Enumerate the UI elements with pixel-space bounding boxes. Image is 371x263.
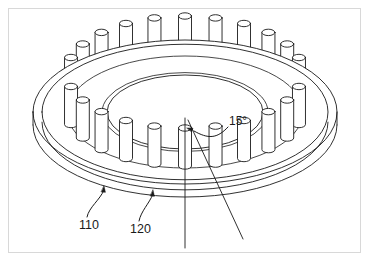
patent-figure: 110 120 15° xyxy=(0,0,371,263)
reference-label-110: 110 xyxy=(79,218,99,232)
angle-label-15-degrees: 15° xyxy=(229,114,247,128)
technical-drawing: 110 120 15° xyxy=(0,0,371,263)
reference-label-120: 120 xyxy=(130,222,151,236)
